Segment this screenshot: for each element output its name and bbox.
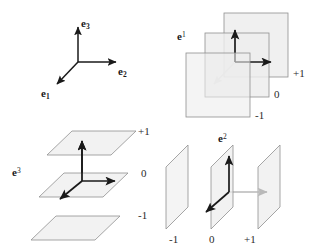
- label-e2-basis: e2: [118, 66, 127, 78]
- plane-e3-zero: [39, 173, 128, 197]
- label-e3-basis: e3: [81, 18, 90, 30]
- level-label-e1-minus1: -1: [255, 110, 264, 121]
- panel-dual-e3: [31, 131, 136, 240]
- level-label-e3-zero: 0: [141, 168, 147, 179]
- label-e1-basis: e1: [41, 88, 50, 100]
- panel-dual-e2: [166, 145, 280, 229]
- level-label-e1-plus1: +1: [293, 68, 305, 79]
- figure-root: e3 e2 e1 e1 +1 0 -1 e3 +1 0 -1 e2 -1 0 +…: [0, 0, 322, 252]
- plane-e3-minus1: [31, 216, 120, 240]
- plane-e3-plus1: [47, 131, 136, 155]
- axis-e1-arrow: [57, 62, 78, 84]
- label-dual-e1: e1: [177, 31, 186, 42]
- plane-e2-plus1: [258, 145, 280, 229]
- level-label-e3-plus1: +1: [138, 126, 150, 137]
- plane-e1-minus1: [186, 53, 250, 117]
- figure-canvas: [0, 0, 322, 252]
- plane-e2-minus1: [166, 145, 188, 229]
- panel-basis-triad: [57, 27, 116, 84]
- level-label-e1-zero: 0: [274, 89, 280, 100]
- label-dual-e3: e3: [12, 167, 21, 178]
- panel-dual-e1: [186, 13, 288, 117]
- level-label-e3-minus1: -1: [138, 210, 147, 221]
- label-dual-e2: e2: [218, 133, 227, 144]
- level-label-e2-minus1: -1: [169, 234, 178, 245]
- level-label-e2-plus1: +1: [244, 234, 256, 245]
- level-label-e2-zero: 0: [209, 234, 215, 245]
